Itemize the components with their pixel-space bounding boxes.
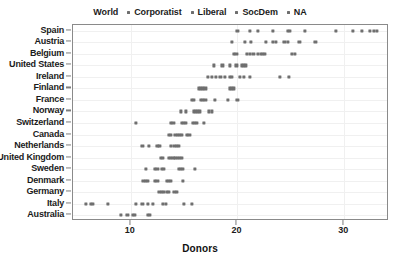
data-point: [368, 29, 371, 32]
data-point: [148, 214, 151, 217]
data-point: [210, 110, 213, 113]
gridline-horizontal: [73, 135, 387, 136]
y-axis-label: Belgium: [30, 48, 64, 57]
data-point: [249, 75, 252, 78]
data-point: [141, 144, 144, 147]
data-point: [167, 191, 170, 194]
y-axis-label: United Kingdom: [0, 152, 64, 161]
x-axis-tick-label: 10: [125, 226, 135, 235]
y-axis-label: Switzerland: [16, 118, 64, 127]
y-axis-tick: [66, 121, 71, 122]
data-point: [279, 75, 282, 78]
legend-marker-icon: [235, 11, 238, 14]
y-axis-tick: [66, 168, 71, 169]
data-point: [175, 191, 178, 194]
gridline-horizontal: [73, 158, 387, 159]
chart-figure: World Corporatist Liberal SocDem NA Spai…: [0, 0, 400, 265]
legend-entry-liberal: Liberal: [191, 8, 227, 17]
data-point: [228, 64, 231, 67]
data-point: [188, 133, 191, 136]
legend-entry-corporatist: Corporatist: [127, 8, 181, 17]
legend-marker-icon: [287, 11, 290, 14]
data-point: [351, 29, 354, 32]
data-point: [293, 52, 296, 55]
y-axis-label: Italy: [47, 198, 64, 207]
data-point: [195, 121, 198, 124]
x-axis-tick-label: 20: [231, 226, 241, 235]
data-point: [170, 179, 173, 182]
y-axis-label: Spain: [40, 25, 64, 34]
y-axis-label: Sweden: [31, 164, 64, 173]
data-point: [134, 202, 137, 205]
y-axis-tick: [66, 191, 71, 192]
y-axis-tick: [66, 202, 71, 203]
data-point: [107, 202, 110, 205]
legend-marker-icon: [191, 11, 194, 14]
data-point: [238, 75, 241, 78]
y-axis-tick: [66, 75, 71, 76]
legend-entry-na: NA: [287, 8, 307, 17]
data-point: [126, 214, 129, 217]
plot-area: [72, 24, 388, 220]
data-point: [146, 202, 149, 205]
y-axis-tick: [66, 110, 71, 111]
data-point: [172, 121, 175, 124]
data-point: [162, 168, 165, 171]
data-point: [151, 202, 154, 205]
data-point: [233, 87, 236, 90]
data-point: [219, 75, 222, 78]
y-axis-label: France: [36, 94, 64, 103]
y-axis-label: Germany: [26, 187, 64, 196]
y-axis-tick: [66, 29, 71, 30]
data-point: [170, 133, 173, 136]
data-point: [156, 168, 159, 171]
data-point: [286, 41, 289, 44]
y-axis-label: Austria: [34, 37, 64, 46]
legend-label-socdem: SocDem: [242, 8, 277, 17]
data-point: [298, 41, 301, 44]
data-point: [252, 52, 255, 55]
data-point: [287, 75, 290, 78]
data-point: [204, 87, 207, 90]
legend-marker-icon: [127, 11, 130, 14]
data-point: [92, 202, 95, 205]
data-point: [223, 75, 226, 78]
y-axis-tick: [66, 156, 71, 157]
data-point: [244, 64, 247, 67]
data-point: [158, 144, 161, 147]
data-point: [376, 29, 379, 32]
y-axis-label: Ireland: [36, 71, 64, 80]
y-axis-tick: [66, 98, 71, 99]
data-point: [230, 75, 233, 78]
data-point: [181, 179, 184, 182]
data-point: [204, 98, 207, 101]
data-point: [147, 144, 150, 147]
data-point: [235, 52, 238, 55]
data-point: [221, 64, 224, 67]
data-point: [236, 98, 239, 101]
legend-title-entry: World: [93, 8, 118, 17]
data-point: [214, 75, 217, 78]
data-point: [235, 64, 238, 67]
data-point: [210, 75, 213, 78]
data-point: [190, 202, 193, 205]
y-axis-label: Denmark: [27, 175, 64, 184]
data-point: [119, 214, 122, 217]
y-axis-tick: [66, 133, 71, 134]
data-point: [134, 121, 137, 124]
data-point: [274, 41, 277, 44]
gridline-horizontal: [73, 123, 387, 124]
data-point: [264, 52, 267, 55]
data-point: [193, 168, 196, 171]
gridline-vertical: [131, 25, 132, 219]
data-point: [230, 41, 233, 44]
y-axis-tick: [66, 52, 71, 53]
data-point: [181, 168, 184, 171]
y-axis-label: Canada: [33, 129, 64, 138]
y-axis-tick: [66, 214, 71, 215]
data-point: [265, 41, 268, 44]
y-axis-tick: [66, 145, 71, 146]
data-point: [179, 110, 182, 113]
gridline-horizontal: [73, 181, 387, 182]
data-point: [164, 202, 167, 205]
